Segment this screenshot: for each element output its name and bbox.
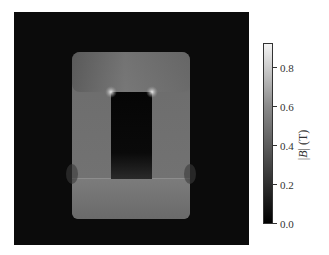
bottom-yoke bbox=[72, 178, 190, 219]
colorbar-tick-label: 0.4 bbox=[280, 141, 294, 152]
colorbar-tick bbox=[273, 145, 277, 146]
colorbar-tick-label: 0.0 bbox=[280, 219, 294, 230]
field-heatmap bbox=[14, 12, 249, 245]
colorbar bbox=[263, 43, 273, 224]
hotspot-left bbox=[105, 86, 117, 98]
hotspot-right bbox=[146, 86, 158, 98]
colorbar-tick bbox=[273, 223, 277, 224]
colorbar-tick-label: 0.6 bbox=[280, 102, 294, 113]
colorbar-tick bbox=[273, 67, 277, 68]
colorbar-label: |B| (T) bbox=[296, 130, 311, 160]
core-field-map bbox=[14, 12, 249, 245]
colorbar-tick-label: 0.8 bbox=[280, 63, 294, 74]
core-window bbox=[111, 92, 152, 179]
colorbar-tick bbox=[273, 106, 277, 107]
colorbar-tick bbox=[273, 184, 277, 185]
colorbar-tick-label: 0.2 bbox=[280, 180, 294, 191]
